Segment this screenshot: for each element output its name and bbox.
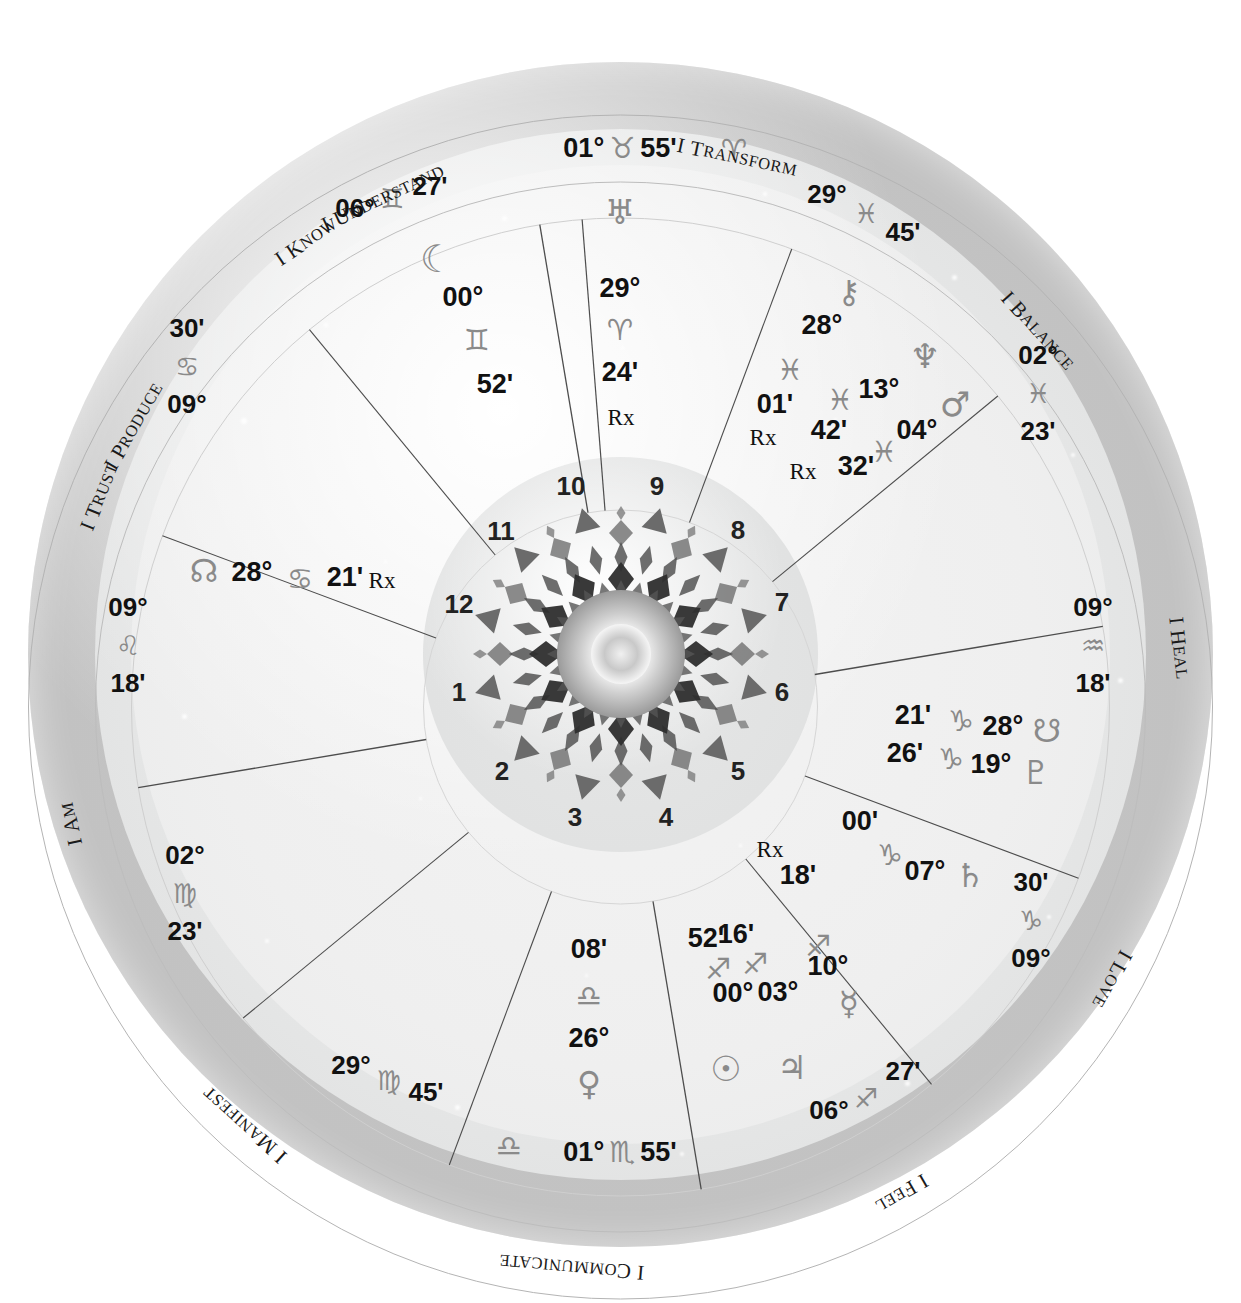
keyword-ring-labels: I PRODUCEI UNDERSTANDI TRANSFORMI BALANC… [0, 0, 1241, 1303]
natal-chart-wheel: 12345678910111230'♋09°09°♌18'02°♍23'09°♒… [0, 0, 1241, 1303]
keyword-i-know: I KNOW [270, 211, 342, 270]
keyword-i-manifest: I MANIFEST [197, 1081, 291, 1169]
keyword-i-transform: I TRANSFORM [675, 133, 800, 182]
keyword-i-communicate: I COMMUNICATE [498, 1249, 645, 1286]
keyword-i-am: I AM [54, 800, 87, 848]
keyword-i-produce: I PRODUCE [99, 378, 168, 474]
keyword-i-heal: I HEAL [1164, 616, 1194, 681]
keyword-i-balance: I BALANCE [996, 286, 1080, 375]
keyword-i-feel: I FEEL [871, 1169, 933, 1219]
keyword-i-trust: I TRUST [75, 459, 124, 534]
keyword-i-love: I LOVE [1087, 946, 1138, 1012]
